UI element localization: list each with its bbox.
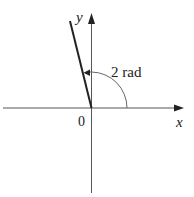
origin-label: 0 — [78, 114, 85, 129]
x-axis-label: x — [175, 114, 183, 130]
arc-arrow-icon — [84, 70, 91, 77]
x-axis-arrow-icon — [174, 105, 184, 112]
angle-label: 2 rad — [111, 64, 142, 80]
y-axis-arrow-icon — [88, 13, 95, 24]
y-axis-label: y — [74, 9, 83, 25]
terminal-side — [70, 21, 92, 108]
angle-diagram: y x 0 2 rad — [0, 0, 194, 197]
